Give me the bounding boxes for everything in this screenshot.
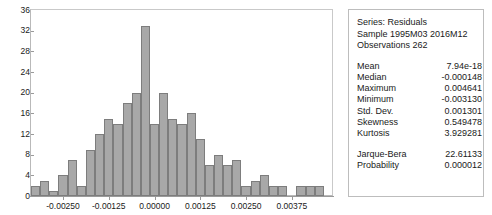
stats-row-value: 22.61133	[420, 149, 482, 160]
histogram-bar	[196, 139, 205, 196]
histogram-figure: 04812162024283236 -0.00250-0.001250.0000…	[0, 0, 492, 215]
x-axis-line	[30, 196, 334, 197]
histogram-bar	[168, 119, 177, 197]
stats-row: Minimum-0.003130	[357, 94, 483, 105]
histogram-bar	[113, 124, 122, 196]
stats-header-line: Series: Residuals	[357, 17, 483, 29]
stats-row-value: -0.003130	[420, 94, 482, 105]
histogram-bar	[296, 186, 305, 196]
histogram-bar	[58, 175, 67, 196]
histogram-bar	[95, 134, 104, 196]
y-tick-label: 8	[4, 150, 30, 159]
histogram-chart: 04812162024283236 -0.00250-0.001250.0000…	[0, 0, 340, 215]
x-tick-mark	[246, 197, 247, 200]
histogram-bar	[177, 124, 186, 196]
y-tick-label: 28	[4, 47, 30, 56]
y-tick-mark	[31, 93, 34, 94]
histogram-bar	[205, 165, 214, 196]
y-tick-label: 20	[4, 88, 30, 97]
histogram-bar	[132, 93, 141, 196]
y-axis: 04812162024283236	[0, 0, 30, 215]
stats-row-label: Median	[357, 72, 420, 83]
histogram-bar	[49, 191, 58, 196]
y-tick-mark	[31, 113, 34, 114]
stats-row: Kurtosis3.929281	[357, 128, 483, 139]
stats-row-value: 0.000012	[420, 160, 482, 171]
y-tick-label: 24	[4, 68, 30, 77]
y-tick-label: 32	[4, 26, 30, 35]
histogram-bar	[214, 155, 223, 196]
y-tick-label: 16	[4, 109, 30, 118]
stats-row-value: 3.929281	[420, 128, 482, 139]
stats-row-label: Probability	[357, 160, 420, 171]
histogram-bar	[306, 186, 315, 196]
histogram-bar	[159, 93, 168, 196]
histogram-bar	[150, 124, 159, 196]
histogram-bar	[141, 26, 150, 197]
x-tick-label: 0.00000	[139, 202, 170, 211]
histogram-bar	[269, 186, 278, 196]
stats-test-row: Probability0.000012	[357, 160, 483, 171]
y-tick-mark	[31, 31, 34, 32]
stats-spacer-2	[357, 140, 483, 149]
histogram-bar	[86, 150, 95, 197]
histogram-bar	[278, 186, 287, 196]
histogram-bar	[251, 181, 260, 197]
stats-header-line: Sample 1995M03 2016M12	[357, 29, 483, 41]
y-tick-mark	[31, 72, 34, 73]
statistics-panel: Series: ResidualsSample 1995M03 2016M12O…	[348, 9, 484, 197]
stats-row-label: Kurtosis	[357, 128, 420, 139]
histogram-bar	[241, 186, 250, 196]
histogram-bar	[187, 113, 196, 196]
y-tick-label: 12	[4, 130, 30, 139]
histogram-bar	[223, 165, 232, 196]
histogram-bar	[123, 103, 132, 196]
stats-header: Series: ResidualsSample 1995M03 2016M12O…	[357, 17, 483, 52]
y-tick-mark	[31, 175, 34, 176]
stats-row-label: Minimum	[357, 94, 420, 105]
histogram-bar	[315, 186, 324, 196]
stats-row-label: Mean	[357, 61, 420, 72]
histogram-bars	[31, 10, 333, 196]
stats-row-label: Skewness	[357, 117, 420, 128]
y-tick-mark	[31, 155, 34, 156]
y-tick-mark	[31, 134, 34, 135]
stats-row-value: 0.549478	[420, 117, 482, 128]
stats-row: Maximum0.004641	[357, 83, 483, 94]
histogram-bar	[232, 160, 241, 196]
stats-row-label: Std. Dev.	[357, 106, 420, 117]
x-tick-label: 0.00250	[231, 202, 262, 211]
x-tick-mark	[63, 197, 64, 200]
x-tick-mark	[200, 197, 201, 200]
stats-row-value: -0.000148	[420, 72, 482, 83]
x-tick-label: 0.00125	[185, 202, 216, 211]
stats-row-label: Jarque-Bera	[357, 149, 420, 160]
histogram-bar	[104, 119, 113, 197]
stats-test-row: Jarque-Bera22.61133	[357, 149, 483, 160]
stats-descriptive-rows: Mean7.94e-18Median-0.000148Maximum0.0046…	[357, 61, 483, 140]
stats-row-label: Maximum	[357, 83, 420, 94]
histogram-bar	[77, 186, 86, 196]
stats-row-value: 0.004641	[420, 83, 482, 94]
y-tick-mark	[31, 51, 34, 52]
histogram-bar	[260, 175, 269, 196]
stats-row: Median-0.000148	[357, 72, 483, 83]
histogram-bar	[31, 186, 40, 196]
stats-row: Skewness0.549478	[357, 117, 483, 128]
x-tick-label: -0.00125	[92, 202, 126, 211]
stats-spacer-1	[357, 52, 483, 61]
histogram-bar	[68, 160, 77, 196]
x-tick-label: -0.00250	[46, 202, 80, 211]
y-tick-label: 0	[4, 192, 30, 201]
x-tick-mark	[155, 197, 156, 200]
stats-row-value: 7.94e-18	[420, 61, 482, 72]
stats-row: Std. Dev.0.001301	[357, 106, 483, 117]
stats-row: Mean7.94e-18	[357, 61, 483, 72]
x-tick-label: 0.00375	[276, 202, 307, 211]
y-tick-label: 36	[4, 6, 30, 15]
histogram-bar	[40, 181, 49, 197]
x-tick-mark	[109, 197, 110, 200]
y-tick-label: 4	[4, 171, 30, 180]
x-tick-mark	[292, 197, 293, 200]
stats-header-line: Observations 262	[357, 40, 483, 52]
